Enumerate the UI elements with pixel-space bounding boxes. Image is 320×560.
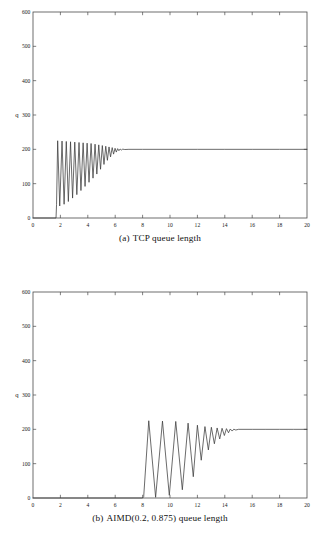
y-tick-label: 600 xyxy=(22,9,31,15)
x-tick-label: 10 xyxy=(167,502,173,508)
caption-a-text: TCP queue length xyxy=(133,233,201,243)
plot-b-container: 024681012141618200100200300400500600tq xyxy=(0,280,320,512)
series-line xyxy=(33,421,307,498)
caption-a-tag: (a) xyxy=(119,233,130,243)
x-tick-label: 4 xyxy=(86,222,89,228)
x-tick-label: 6 xyxy=(114,222,117,228)
y-tick-label: 100 xyxy=(22,461,31,467)
series-line xyxy=(33,141,307,218)
x-tick-label: 20 xyxy=(304,502,310,508)
x-axis-label: t xyxy=(169,509,171,512)
plot-a-container: 024681012141618200100200300400500600tq xyxy=(0,0,320,232)
x-tick-label: 6 xyxy=(114,502,117,508)
x-axis-label: t xyxy=(169,229,171,232)
x-tick-label: 20 xyxy=(304,222,310,228)
y-tick-label: 300 xyxy=(22,112,31,118)
x-tick-label: 16 xyxy=(249,502,255,508)
y-tick-label: 500 xyxy=(22,43,31,49)
x-tick-label: 8 xyxy=(141,222,144,228)
x-tick-label: 2 xyxy=(59,502,62,508)
x-tick-label: 0 xyxy=(32,502,35,508)
caption-b: (b)AIMD(0.2, 0.875) queue length xyxy=(0,513,320,523)
caption-a: (a)TCP queue length xyxy=(0,233,320,243)
y-tick-label: 400 xyxy=(22,78,31,84)
x-tick-label: 10 xyxy=(167,222,173,228)
x-tick-label: 8 xyxy=(141,502,144,508)
y-tick-label: 0 xyxy=(28,215,31,221)
x-tick-label: 18 xyxy=(277,502,283,508)
y-tick-label: 200 xyxy=(22,426,31,432)
y-tick-label: 300 xyxy=(22,392,31,398)
y-tick-label: 400 xyxy=(22,358,31,364)
x-tick-label: 16 xyxy=(249,222,255,228)
x-tick-label: 14 xyxy=(222,222,228,228)
x-tick-label: 18 xyxy=(277,222,283,228)
caption-b-tag: (b) xyxy=(92,513,103,523)
plot-b-svg: 024681012141618200100200300400500600tq xyxy=(0,280,320,512)
figure-page: 024681012141618200100200300400500600tq (… xyxy=(0,0,320,560)
plot-a-svg: 024681012141618200100200300400500600tq xyxy=(0,0,320,232)
x-tick-label: 0 xyxy=(32,222,35,228)
figure-b: 024681012141618200100200300400500600tq (… xyxy=(0,280,320,542)
x-tick-label: 12 xyxy=(195,222,201,228)
y-tick-label: 0 xyxy=(28,495,31,501)
x-tick-label: 4 xyxy=(86,502,89,508)
y-tick-label: 600 xyxy=(22,289,31,295)
x-tick-label: 2 xyxy=(59,222,62,228)
y-tick-label: 100 xyxy=(22,181,31,187)
x-tick-label: 14 xyxy=(222,502,228,508)
y-tick-label: 200 xyxy=(22,146,31,152)
figure-a: 024681012141618200100200300400500600tq (… xyxy=(0,0,320,262)
y-axis-label: q xyxy=(15,111,19,118)
caption-b-text: AIMD(0.2, 0.875) queue length xyxy=(106,513,227,523)
x-tick-label: 12 xyxy=(195,502,201,508)
y-tick-label: 500 xyxy=(22,323,31,329)
y-axis-label: q xyxy=(15,391,19,398)
